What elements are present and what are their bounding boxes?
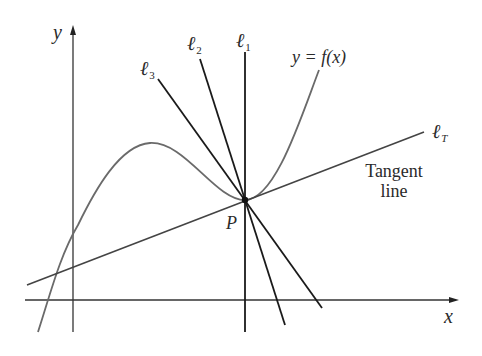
line-l1-label: ℓ1	[236, 30, 251, 50]
tangent-line-caption: Tangent line	[357, 161, 431, 201]
point-p-label: P	[226, 214, 237, 232]
y-axis-label: y	[53, 22, 62, 42]
l1-symbol: ℓ	[236, 29, 244, 51]
curve-f	[38, 70, 319, 332]
lT-subscript: T	[441, 132, 447, 144]
tangent-line-lT-label: ℓT	[432, 121, 447, 141]
tangent-line-diagram: y x ℓ1 ℓ2 ℓ3 ℓT y = f(x) P Tangent line	[0, 0, 482, 356]
x-axis-label: x	[444, 306, 453, 326]
l2-subscript: 2	[196, 44, 202, 56]
line-l2	[200, 59, 285, 325]
l1-subscript: 1	[245, 41, 251, 53]
line-l2-label: ℓ2	[187, 33, 202, 53]
line-l3-label: ℓ3	[140, 58, 155, 78]
x-axis-arrow-icon	[449, 297, 459, 303]
line-l3	[158, 79, 322, 308]
lT-symbol: ℓ	[432, 120, 440, 142]
y-axis-arrow-icon	[70, 25, 76, 35]
l3-subscript: 3	[149, 69, 155, 81]
l2-symbol: ℓ	[187, 32, 195, 54]
tangent-caption-line2: line	[357, 181, 431, 201]
curve-label: y = f(x)	[292, 48, 346, 66]
l3-symbol: ℓ	[140, 57, 148, 79]
tangent-caption-line1: Tangent	[357, 161, 431, 181]
point-p-marker	[242, 197, 248, 203]
